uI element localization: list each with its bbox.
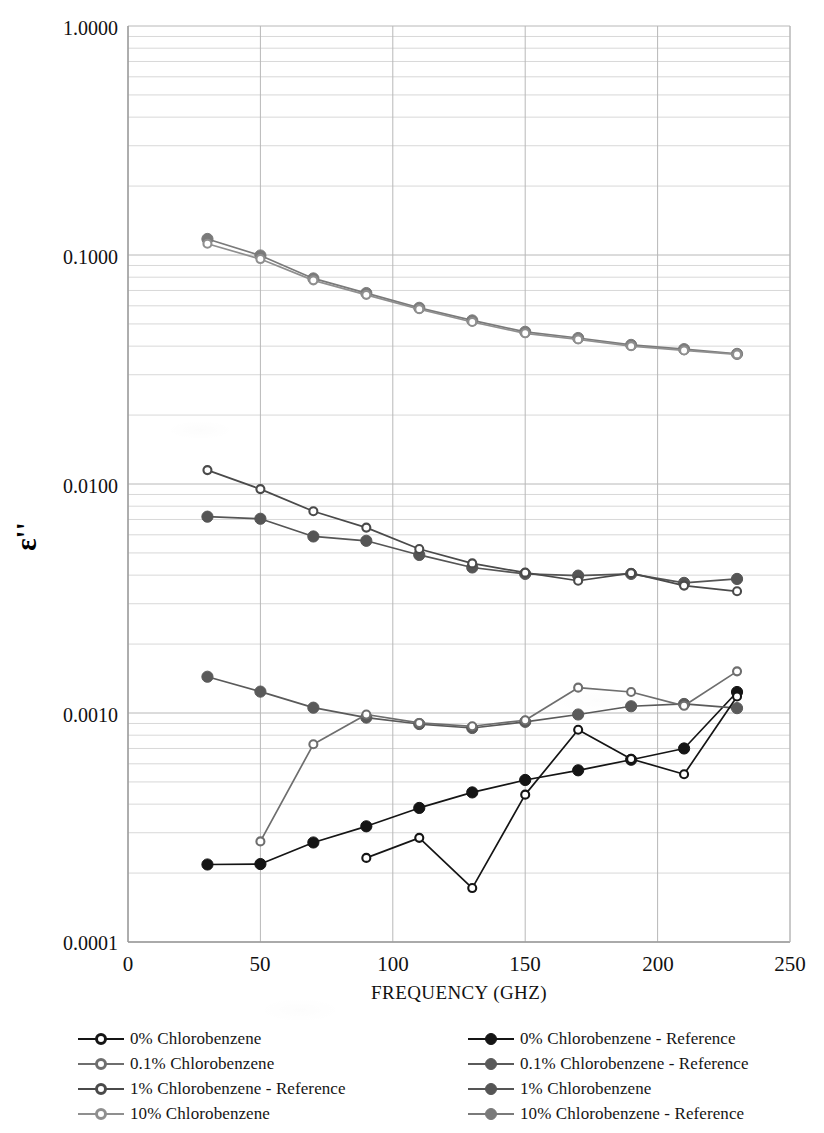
legend-label: 1% Chlorobenzene - Reference	[130, 1079, 346, 1099]
x-tick-50: 50	[220, 952, 300, 977]
y-tick-1: 1.0000	[8, 18, 118, 38]
legend-marker-icon	[78, 1056, 124, 1072]
legend-column-left: 0% Chlorobenzene0.1% Chlorobenzene1% Chl…	[78, 1026, 418, 1126]
legend-item[interactable]: 0.1% Chlorobenzene	[78, 1051, 418, 1076]
legend-item[interactable]: 10% Chlorobenzene - Reference	[468, 1101, 818, 1126]
chart-legend: 0% Chlorobenzene0.1% Chlorobenzene1% Chl…	[0, 1026, 824, 1133]
legend-marker-icon	[468, 1056, 514, 1072]
legend-marker-icon	[78, 1106, 124, 1122]
x-axis-title: FREQUENCY (GHZ)	[128, 982, 790, 1004]
legend-item[interactable]: 1% Chlorobenzene - Reference	[78, 1076, 418, 1101]
series-1-chlorobenzene	[202, 511, 743, 588]
legend-item[interactable]: 1% Chlorobenzene	[468, 1076, 818, 1101]
series-1-chlorobenzene-reference	[203, 466, 741, 595]
x-tick-200: 200	[618, 952, 698, 977]
legend-label: 0.1% Chlorobenzene	[130, 1054, 274, 1074]
legend-marker-icon	[78, 1081, 124, 1097]
series-10-chlorobenzene-reference	[202, 233, 743, 359]
legend-label: 10% Chlorobenzene	[130, 1104, 270, 1124]
data-series-layer	[202, 233, 743, 892]
y-tick-5: 0.0001	[8, 933, 118, 953]
x-tick-250: 250	[750, 952, 824, 977]
y-tick-2: 0.1000	[8, 247, 118, 267]
series-0-1-chlorobenzene	[256, 667, 741, 845]
series-10-chlorobenzene	[203, 240, 741, 359]
legend-column-right: 0% Chlorobenzene - Reference0.1% Chlorob…	[468, 1026, 818, 1126]
legend-item[interactable]: 0% Chlorobenzene - Reference	[468, 1026, 818, 1051]
x-tick-0: 0	[88, 952, 168, 977]
legend-marker-icon	[468, 1106, 514, 1122]
legend-item[interactable]: 10% Chlorobenzene	[78, 1101, 418, 1126]
legend-marker-icon	[468, 1081, 514, 1097]
legend-label: 10% Chlorobenzene - Reference	[520, 1104, 744, 1124]
series-0-chlorobenzene-reference	[202, 686, 743, 870]
legend-label: 0.1% Chlorobenzene - Reference	[520, 1054, 749, 1074]
x-tick-100: 100	[353, 952, 433, 977]
y-axis-title: ε''	[10, 517, 43, 557]
legend-label: 0% Chlorobenzene - Reference	[520, 1029, 736, 1049]
legend-marker-icon	[78, 1031, 124, 1047]
minor-gridlines	[128, 36, 790, 873]
legend-label: 0% Chlorobenzene	[130, 1029, 261, 1049]
x-tick-150: 150	[485, 952, 565, 977]
chart-figure: 1.0000 0.1000 0.0100 0.0010 0.0001 ε'' 0…	[0, 0, 824, 1133]
plot-area	[128, 26, 790, 942]
plot-canvas	[128, 26, 790, 942]
y-tick-4: 0.0010	[8, 705, 118, 725]
legend-label: 1% Chlorobenzene	[520, 1079, 651, 1099]
legend-marker-icon	[468, 1031, 514, 1047]
legend-item[interactable]: 0% Chlorobenzene	[78, 1026, 418, 1051]
legend-item[interactable]: 0.1% Chlorobenzene - Reference	[468, 1051, 818, 1076]
y-tick-3: 0.0100	[8, 476, 118, 496]
